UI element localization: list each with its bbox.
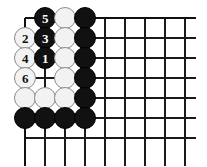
grid-line-vertical-6 [124, 18, 126, 166]
stone-black-move-5: 5 [34, 7, 56, 29]
stone-move-number: 1 [42, 52, 48, 65]
stone-white [54, 27, 76, 49]
stone-move-number: 2 [22, 32, 28, 45]
grid-line-vertical-5 [104, 18, 106, 166]
stone-black [14, 107, 36, 129]
stone-white [54, 7, 76, 29]
grid-line-horizontal-7 [25, 137, 196, 139]
stone-white [54, 87, 76, 109]
stone-black-move-1: 1 [34, 47, 56, 69]
go-board-diagram: 523416 [0, 0, 207, 167]
stone-white [14, 87, 36, 109]
stone-black [54, 107, 76, 129]
stone-white-move-6: 6 [14, 67, 36, 89]
stone-black-move-3: 3 [34, 27, 56, 49]
stone-black [34, 107, 56, 129]
stone-black [74, 87, 96, 109]
stone-black [74, 47, 96, 69]
stone-move-number: 3 [42, 32, 48, 45]
stone-white [54, 47, 76, 69]
stone-white-move-4: 4 [14, 47, 36, 69]
stone-black [74, 7, 96, 29]
stone-white-move-2: 2 [14, 27, 36, 49]
stone-move-number: 4 [22, 52, 28, 65]
stone-black [74, 67, 96, 89]
stone-move-number: 5 [42, 12, 48, 25]
stone-white [54, 67, 76, 89]
grid-line-vertical-9 [184, 18, 186, 166]
grid-line-horizontal-4 [25, 77, 196, 79]
grid-line-vertical-8 [164, 18, 166, 166]
grid-line-vertical-7 [144, 18, 146, 166]
stone-black [74, 27, 96, 49]
stone-black [74, 107, 96, 129]
stone-white [34, 87, 56, 109]
stone-move-number: 6 [22, 72, 28, 85]
